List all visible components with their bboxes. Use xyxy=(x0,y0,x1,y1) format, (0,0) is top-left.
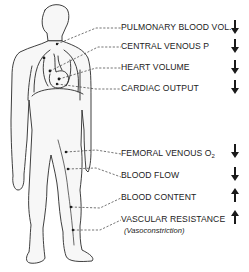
callout-heart-volume: HEART VOLUME xyxy=(121,62,190,72)
head-outline xyxy=(42,5,69,41)
subscript-2: 2 xyxy=(212,153,215,159)
arrow-down-icon xyxy=(230,20,240,34)
callout-vasoconstriction-note: (Vasoconstriction) xyxy=(124,226,185,235)
callout-femoral-label: FEMORAL VENOUS O xyxy=(121,148,212,158)
callout-blood-flow: BLOOD FLOW xyxy=(121,170,179,180)
body-outline xyxy=(11,41,93,263)
arrow-down-icon xyxy=(230,167,240,181)
callout-central-venous-pressure: CENTRAL VENOUS P xyxy=(121,41,209,51)
arrow-up-icon xyxy=(230,188,240,202)
callout-pulmonary-blood-volume: PULMONARY BLOOD VOL. xyxy=(121,22,232,32)
arrow-down-icon xyxy=(230,144,240,158)
arrow-down-icon xyxy=(230,80,240,94)
callout-blood-content: BLOOD CONTENT xyxy=(121,192,196,202)
arrow-up-icon xyxy=(230,210,240,224)
callout-vascular-resistance: VASCULAR RESISTANCE xyxy=(121,214,225,224)
arrow-down-icon xyxy=(230,60,240,74)
callout-cardiac-output: CARDIAC OUTPUT xyxy=(121,83,199,93)
callout-femoral-venous-o2: FEMORAL VENOUS O2 xyxy=(121,148,215,161)
arrow-down-icon xyxy=(230,39,240,53)
